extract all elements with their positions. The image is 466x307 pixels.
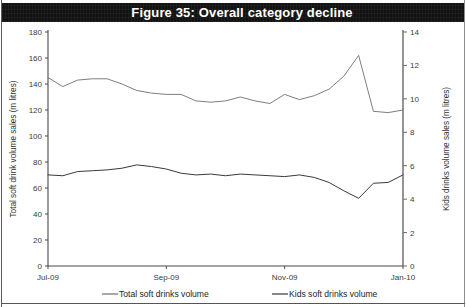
left-axis-tick-label: 40 (33, 210, 42, 219)
right-axis-tick-label: 10 (410, 95, 419, 104)
plot-area-wrapper: 02040608010012014016018002468101214Jul-0… (0, 22, 466, 307)
x-axis-tick-label: Jul-09 (37, 273, 59, 282)
figure-container: Figure 35: Overall category decline 0204… (0, 0, 466, 307)
left-axis-tick-label: 20 (33, 236, 42, 245)
right-axis-title: Kids drinks volume sales (m litres) (442, 87, 451, 211)
right-axis-tick-label: 12 (410, 61, 419, 70)
figure-title-band: Figure 35: Overall category decline (2, 3, 464, 22)
left-axis-tick-label: 100 (29, 132, 43, 141)
left-axis-title: Total soft drink volume sales (m litres) (9, 80, 18, 217)
left-axis-tick-label: 60 (33, 184, 42, 193)
series-line-2 (48, 165, 403, 198)
axes-layer: 02040608010012014016018002468101214Jul-0… (9, 28, 451, 282)
series-layer (48, 55, 403, 198)
legend-layer: Total soft drinks volumeKids soft drinks… (102, 289, 378, 299)
left-axis-tick-label: 180 (29, 28, 43, 37)
right-axis-tick-label: 6 (410, 162, 415, 171)
right-axis-tick-label: 2 (410, 229, 415, 238)
x-axis-tick-label: Sep-09 (153, 273, 179, 282)
left-axis-tick-label: 140 (29, 80, 43, 89)
x-axis-tick-label: Nov-09 (272, 273, 298, 282)
left-axis-tick-label: 160 (29, 54, 43, 63)
figure-title: Figure 35: Overall category decline (2, 5, 464, 20)
x-axis-tick-label: Jan-10 (391, 273, 416, 282)
left-axis-tick-label: 80 (33, 158, 42, 167)
legend-label-2: Kids soft drinks volume (289, 289, 378, 299)
line-chart: 02040608010012014016018002468101214Jul-0… (0, 22, 466, 307)
left-axis-tick-label: 0 (38, 262, 43, 271)
left-axis-tick-label: 120 (29, 106, 43, 115)
right-axis-tick-label: 0 (410, 262, 415, 271)
right-axis-tick-label: 14 (410, 28, 419, 37)
right-axis-tick-label: 4 (410, 195, 415, 204)
right-axis-tick-label: 8 (410, 128, 415, 137)
series-line-1 (48, 55, 403, 112)
legend-label-1: Total soft drinks volume (119, 289, 209, 299)
